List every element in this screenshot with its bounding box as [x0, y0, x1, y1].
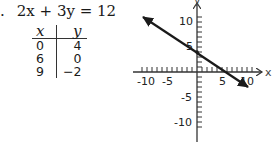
- y-tick-label: -5: [181, 91, 192, 104]
- x-tick-label: 5: [219, 75, 226, 88]
- y-axis-label: y: [194, 0, 201, 7]
- coordinate-graph: x y -10 -5 5 10 10 5 -5 -10: [0, 0, 276, 144]
- y-tick-label: 10: [179, 15, 193, 28]
- x-axis-label: x: [265, 66, 272, 79]
- y-tick-label: -10: [174, 116, 192, 129]
- point-0-4: [195, 50, 199, 54]
- x-tick-label: -10: [137, 75, 155, 88]
- x-tick-label: -5: [162, 75, 173, 88]
